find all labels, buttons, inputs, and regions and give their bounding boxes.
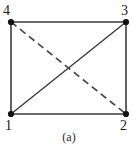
vertex-4 — [8, 19, 14, 25]
vertex-3 — [123, 19, 129, 25]
vertex-2 — [123, 111, 129, 117]
figure-quadrilateral-graph: 4 3 1 2 (a) — [0, 0, 138, 150]
vertex-1 — [8, 111, 14, 117]
vertex-label-3: 3 — [121, 4, 128, 18]
figure-caption: (a) — [0, 130, 138, 144]
vertex-label-4: 4 — [3, 4, 10, 18]
graph-canvas — [0, 0, 138, 150]
